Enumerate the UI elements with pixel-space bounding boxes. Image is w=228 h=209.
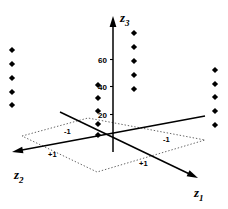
data-point: [131, 30, 137, 36]
cluster-right: [212, 67, 218, 128]
tick-label-z2-1: +1: [48, 151, 57, 159]
data-point: [131, 86, 137, 92]
data-point: [9, 75, 15, 81]
data-point: [95, 121, 101, 127]
tick-label-z1-1: +1: [139, 160, 148, 168]
cluster-left: [9, 47, 15, 108]
axis-label-subscript: 1: [199, 193, 204, 203]
axis-z1-arrowhead: [187, 170, 198, 178]
cluster-center-right: [131, 30, 137, 92]
data-point: [9, 102, 15, 108]
data-point: [212, 81, 218, 87]
axis-label-z3: z3: [120, 11, 130, 28]
axis-label-z1: z1: [194, 186, 204, 203]
axis-label-subscript: 3: [125, 18, 130, 28]
data-point: [131, 58, 137, 64]
axis-label-z2: z2: [14, 168, 24, 185]
data-point: [212, 108, 218, 114]
tick-label-z3-2: 20: [98, 112, 107, 120]
tick-label-z1-0: -1: [163, 136, 170, 144]
data-point: [131, 72, 137, 78]
axis-z2-arrowhead: [12, 147, 23, 154]
tick-label-z3-0: 60: [98, 57, 107, 65]
data-point: [212, 122, 218, 128]
axis-label-subscript: 2: [19, 175, 24, 185]
tick-label-z3-1: 40: [98, 84, 107, 92]
axis-z3-arrowhead: [110, 16, 117, 27]
data-point: [212, 67, 218, 73]
figure-canvas: [0, 0, 228, 209]
data-point: [95, 95, 101, 101]
data-point: [9, 61, 15, 67]
data-point: [212, 94, 218, 100]
data-point: [95, 132, 101, 138]
data-point: [9, 47, 15, 53]
data-point: [131, 44, 137, 50]
figure-3d-scatter: z3 z1 z2 604020-1+1-1+1: [0, 0, 228, 209]
data-point: [9, 89, 15, 95]
tick-label-z2-0: -1: [64, 128, 71, 136]
